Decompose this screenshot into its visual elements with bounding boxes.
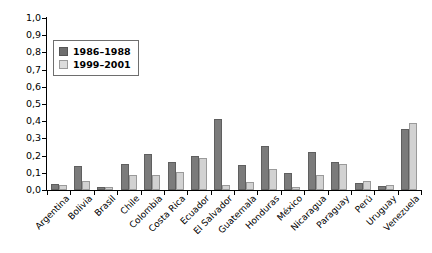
y-axis-tick-label: 0,6	[1, 82, 41, 92]
bar-series-1	[409, 123, 417, 190]
bar-group	[234, 18, 257, 190]
bar-series-1	[129, 175, 137, 190]
bar-series-0	[168, 162, 176, 190]
bar-series-0	[355, 183, 363, 190]
bar-series-0	[121, 164, 129, 190]
bar-series-1	[176, 172, 184, 190]
bar-group	[257, 18, 280, 190]
legend-swatch-icon-series-1	[59, 60, 68, 69]
bar-group	[141, 18, 164, 190]
bar-series-0	[308, 152, 316, 190]
y-axis-tick-label: 1,0	[1, 13, 41, 23]
legend-item-series-0: 1986–1988	[59, 45, 131, 58]
bar-series-1	[199, 158, 207, 190]
y-axis-tick-label: 0,1	[1, 168, 41, 178]
y-axis-tick-label: 0,8	[1, 48, 41, 58]
y-axis-tick-label: 0,2	[1, 151, 41, 161]
bar-series-1	[269, 169, 277, 191]
x-axis-labels: ArgentinaBoliviaBrasilChileColombiaCosta…	[0, 191, 432, 253]
bar-series-0	[144, 154, 152, 190]
bar-group	[304, 18, 327, 190]
bar-group	[328, 18, 351, 190]
bar-series-1	[152, 175, 160, 190]
bar-series-0	[74, 166, 82, 190]
y-axis-tick-label: 0,5	[1, 99, 41, 109]
bar-group	[164, 18, 187, 190]
bar-series-0	[214, 119, 222, 190]
bar-group	[281, 18, 304, 190]
bar-group	[187, 18, 210, 190]
bar-series-0	[331, 162, 339, 190]
legend-swatch-icon-series-0	[59, 47, 68, 56]
bar-chart: 1,00,90,80,70,60,50,40,30,20,10,0 Argent…	[0, 0, 432, 253]
y-axis-tick-label: 0,7	[1, 65, 41, 75]
legend-item-series-1: 1999–2001	[59, 58, 131, 71]
bar-series-1	[363, 181, 371, 190]
bar-group	[398, 18, 421, 190]
y-axis-tick-label: 0,4	[1, 116, 41, 126]
bar-series-0	[261, 146, 269, 190]
legend-label-series-0: 1986–1988	[73, 47, 131, 57]
bar-series-1	[246, 182, 254, 190]
bar-series-0	[401, 129, 409, 190]
bar-series-1	[339, 164, 347, 190]
bar-group	[351, 18, 374, 190]
y-axis-tick-label: 0,9	[1, 30, 41, 40]
bar-series-0	[238, 165, 246, 190]
legend-label-series-1: 1999–2001	[73, 60, 131, 70]
bar-series-0	[284, 173, 292, 190]
y-axis-tick-label: 0,3	[1, 134, 41, 144]
bar-series-1	[316, 175, 324, 190]
bar-series-0	[191, 156, 199, 190]
chart-legend: 1986–1988 1999–2001	[53, 40, 139, 76]
bar-series-1	[82, 181, 90, 190]
bar-group	[211, 18, 234, 190]
bar-group	[374, 18, 397, 190]
